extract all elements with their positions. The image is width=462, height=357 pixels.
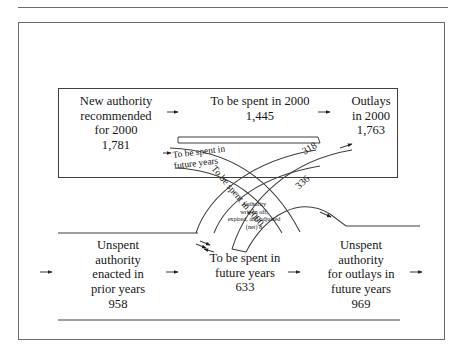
node-unspent-outlays-line2: authority — [338, 253, 383, 267]
node-new-authority: New authority recommended for 2000 1,781 — [60, 94, 172, 153]
node-unspent-prior-line3: enacted in — [92, 267, 143, 281]
flow-label-authority-written-off: Authority written off, expired, and adju… — [216, 200, 292, 230]
node-new-authority-line2: recommended — [80, 109, 151, 123]
node-to-be-spent-2000-value: 1,445 — [180, 109, 340, 124]
node-outlays-2000-line1: Outlays — [351, 94, 390, 108]
node-to-be-spent-2000-label: To be spent in 2000 — [210, 94, 309, 108]
node-to-be-spent-future-years: To be spent in future years 633 — [182, 251, 308, 295]
node-unspent-outlays-line1: Unspent — [340, 238, 382, 252]
page-top-rule — [18, 7, 448, 8]
written-off-line2: written off, — [240, 208, 268, 215]
node-outlays-2000-value: 1,763 — [340, 123, 402, 138]
node-unspent-outlays-value: 969 — [300, 297, 422, 312]
node-unspent-outlays-line4: future years — [331, 282, 391, 296]
node-unspent-outlays-line3: for outlays in — [327, 267, 394, 281]
node-outlays-2000: Outlays in 2000 1,763 — [340, 94, 402, 138]
node-tbs-future-value: 633 — [182, 280, 308, 295]
node-tbs-future-line2: future years — [215, 266, 275, 280]
node-tbs-future-line1: To be spent in — [210, 251, 281, 265]
diagram-page: New authority recommended for 2000 1,781… — [0, 0, 462, 357]
node-unspent-authority-prior: Unspent authority enacted in prior years… — [62, 238, 174, 312]
written-off-line1: Authority — [242, 200, 266, 207]
node-unspent-prior-value: 958 — [62, 297, 174, 312]
node-unspent-authority-outlays-future: Unspent authority for outlays in future … — [300, 238, 422, 312]
node-to-be-spent-2000: To be spent in 2000 1,445 — [180, 94, 340, 123]
node-new-authority-line3: for 2000 — [94, 123, 137, 137]
node-unspent-prior-line1: Unspent — [97, 238, 139, 252]
node-outlays-2000-line2: in 2000 — [352, 109, 390, 123]
written-off-line4: (net) 8 — [246, 223, 262, 230]
node-unspent-prior-line2: authority — [95, 253, 140, 267]
node-unspent-prior-line4: prior years — [91, 282, 145, 296]
node-new-authority-line1: New authority — [80, 94, 152, 108]
written-off-line3: expired, and adjusted — [228, 215, 281, 222]
node-new-authority-value: 1,781 — [60, 138, 172, 153]
